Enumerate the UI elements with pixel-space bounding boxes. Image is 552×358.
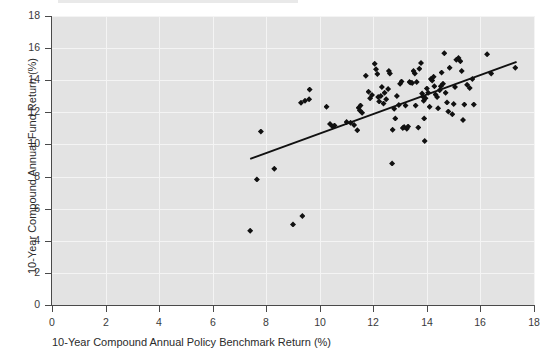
x-axis-tick-label: 18 — [522, 317, 546, 328]
x-axis-tick-labels: 024681012141618 — [0, 0, 552, 358]
y-axis-title-wrapper: 10-Year Compound Annual Fund Return (%) — [10, 10, 24, 310]
x-axis-tick-label: 0 — [40, 317, 64, 328]
scatter-chart-figure: 024681012141618 024681012141618 10-Year … — [0, 0, 552, 358]
x-axis-tick-label: 14 — [415, 317, 439, 328]
x-axis-tick-label: 8 — [254, 317, 278, 328]
x-axis-tick-label: 6 — [201, 317, 225, 328]
x-axis-title: 10-Year Compound Annual Policy Benchmark… — [52, 336, 512, 348]
x-axis-tick-label: 10 — [308, 317, 332, 328]
x-axis-tick-label: 4 — [147, 317, 171, 328]
y-axis-title: 10-Year Compound Annual Fund Return (%) — [26, 16, 38, 316]
x-axis-tick-label: 2 — [94, 317, 118, 328]
x-axis-tick-label: 12 — [361, 317, 385, 328]
x-axis-tick-label: 16 — [468, 317, 492, 328]
